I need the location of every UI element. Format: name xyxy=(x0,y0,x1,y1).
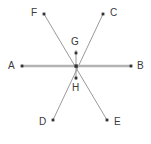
point-a xyxy=(21,65,24,68)
point-c xyxy=(102,13,105,16)
label-g: G xyxy=(71,37,79,47)
geometry-figure: A B C D E F G H xyxy=(0,0,151,144)
point-e xyxy=(106,119,109,122)
label-d: D xyxy=(39,117,46,127)
label-e: E xyxy=(114,117,121,127)
point-intersection xyxy=(74,64,77,67)
label-c: C xyxy=(110,8,117,18)
label-f: F xyxy=(31,8,37,18)
point-h xyxy=(75,77,78,80)
label-h: H xyxy=(72,83,79,93)
point-d xyxy=(52,119,55,122)
point-g xyxy=(75,52,78,55)
point-b xyxy=(130,65,133,68)
point-f xyxy=(43,13,46,16)
figure-canvas xyxy=(0,0,151,144)
label-a: A xyxy=(8,61,15,71)
label-b: B xyxy=(137,61,144,71)
